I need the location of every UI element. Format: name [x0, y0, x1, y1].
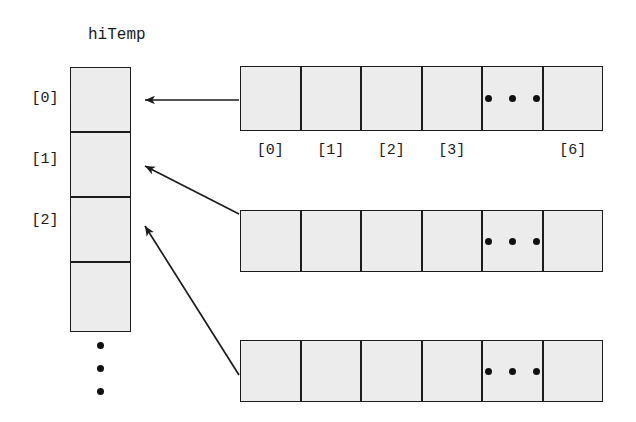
- row-0-index-label-0: [0]: [240, 142, 301, 159]
- row-1-cell-1[interactable]: [301, 210, 362, 272]
- row-1-cell-6[interactable]: [543, 210, 604, 272]
- row-0-cell-1[interactable]: [301, 66, 362, 131]
- row-2-cell-0[interactable]: [240, 340, 301, 402]
- column-index-label-1: [1]: [28, 151, 62, 168]
- ellipsis-dot: [97, 388, 104, 395]
- row-1-cell-3[interactable]: [422, 210, 483, 272]
- row-1-cell-ellipsis[interactable]: [482, 210, 543, 272]
- row-1-cell-2[interactable]: [361, 210, 422, 272]
- row-0-cell-6[interactable]: [543, 66, 604, 131]
- row-2-cell-ellipsis[interactable]: [482, 340, 543, 402]
- row-2-cell-6[interactable]: [543, 340, 604, 402]
- row-0-index-label-6: [6]: [543, 142, 604, 159]
- row-1-cell-0[interactable]: [240, 210, 301, 272]
- row-0-cell-2[interactable]: [361, 66, 422, 131]
- row-2-cell-1[interactable]: [301, 340, 362, 402]
- column-cell-0[interactable]: [70, 67, 131, 132]
- column-cell-2[interactable]: [70, 197, 131, 262]
- ellipsis-dot: [97, 365, 104, 372]
- column-index-label-0: [0]: [28, 90, 62, 107]
- arrow-row2-to-cell2: [145, 226, 239, 375]
- diagram-canvas: hiTemp [0] [1] [2] [0] [1] [2] [3] [6]: [0, 0, 636, 422]
- row-0-cell-0[interactable]: [240, 66, 301, 131]
- row-2-cell-3[interactable]: [422, 340, 483, 402]
- row-2-cell-2[interactable]: [361, 340, 422, 402]
- column-vertical-ellipsis-icon: [97, 342, 104, 395]
- row-0-index-label-3: [3]: [422, 142, 483, 159]
- column-index-label-2: [2]: [28, 212, 62, 229]
- row-0-cell-3[interactable]: [422, 66, 483, 131]
- ellipsis-dot: [97, 342, 104, 349]
- arrow-row1-to-cell1: [145, 166, 239, 214]
- column-cell-3[interactable]: [70, 262, 131, 332]
- row-0-cell-ellipsis[interactable]: [482, 66, 543, 131]
- array-name-label: hiTemp: [88, 26, 146, 44]
- row-0-index-label-2: [2]: [361, 142, 422, 159]
- column-cell-1[interactable]: [70, 132, 131, 197]
- row-0-index-label-1: [1]: [301, 142, 362, 159]
